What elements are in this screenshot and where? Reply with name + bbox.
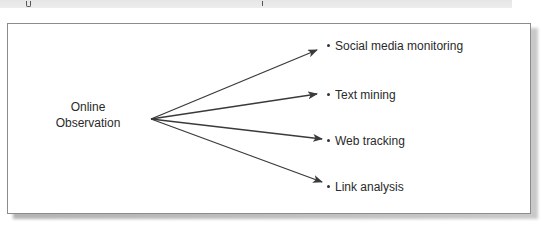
target-label: Link analysis <box>335 180 404 194</box>
target-label: Web tracking <box>335 134 405 148</box>
bullet-icon <box>327 44 330 47</box>
target-item-text-mining: Text mining <box>327 88 396 102</box>
bullet-icon <box>327 185 330 188</box>
source-node-online-observation: Online Observation <box>40 99 136 131</box>
target-item-social-media-monitoring: Social media monitoring <box>327 39 463 53</box>
arrow-to-text-mining <box>151 94 317 119</box>
target-item-link-analysis: Link analysis <box>327 180 404 194</box>
target-item-web-tracking: Web tracking <box>327 134 405 148</box>
target-label: Text mining <box>335 88 396 102</box>
source-label-line1: Online <box>40 99 136 115</box>
source-label-line2: Observation <box>40 115 136 131</box>
bullet-icon <box>327 93 330 96</box>
bullet-icon <box>327 139 330 142</box>
arrow-to-social-media-monitoring <box>151 50 317 119</box>
target-label: Social media monitoring <box>335 39 463 53</box>
